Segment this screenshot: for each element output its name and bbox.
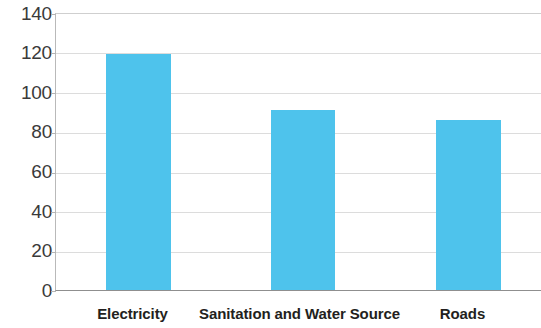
y-axis-tick-label: 140 <box>0 4 52 23</box>
y-axis-tick-label: 20 <box>0 241 52 260</box>
y-axis-tick-140 <box>51 14 56 15</box>
x-axis-label-electricity: Electricity <box>45 306 220 322</box>
bar-chart: 140 120 100 80 60 40 20 0 Electricity Sa… <box>0 0 541 328</box>
y-axis-tick-label: 0 <box>0 281 52 300</box>
y-axis-tick-40 <box>51 212 56 213</box>
bar-electricity <box>106 54 171 290</box>
y-axis-tick-label: 80 <box>0 122 52 141</box>
y-axis-tick-label: 100 <box>0 83 52 102</box>
x-axis-label-roads: Roads <box>385 306 540 322</box>
y-axis-tick-100 <box>51 93 56 94</box>
y-axis-tick-20 <box>51 252 56 253</box>
y-axis-tick-60 <box>51 173 56 174</box>
y-axis-tick-80 <box>51 133 56 134</box>
y-axis-tick-0 <box>51 291 56 292</box>
bar-roads <box>436 120 501 290</box>
y-axis-tick-label: 40 <box>0 202 52 221</box>
x-axis-label-sanitation-and-water-source: Sanitation and Water Source <box>199 306 389 322</box>
bar-sanitation-and-water-source <box>271 110 335 290</box>
plot-area <box>55 13 541 291</box>
y-axis-tick-label: 120 <box>0 43 52 62</box>
y-axis-tick-label: 60 <box>0 162 52 181</box>
y-axis-tick-120 <box>51 53 56 54</box>
